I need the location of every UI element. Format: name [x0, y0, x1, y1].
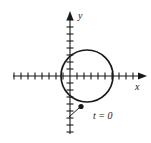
x-axis — [13, 73, 147, 80]
figure-canvas — [0, 0, 151, 143]
annotation-leader-line — [69, 108, 80, 118]
y-axis-arrowhead — [67, 11, 74, 20]
point-marker-t0 — [78, 104, 83, 109]
x-axis-arrowhead — [138, 73, 147, 80]
x-axis-label: x — [135, 82, 139, 92]
point-annotation-label: t = 0 — [93, 111, 113, 121]
parametric-circle-figure: y x t = 0 — [0, 0, 151, 143]
y-axis-label: y — [78, 11, 82, 21]
